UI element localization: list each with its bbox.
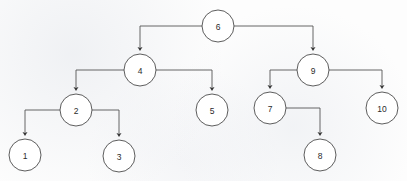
tree-diagram-canvas: 64925710138 bbox=[0, 0, 407, 181]
tree-node[interactable]: 7 bbox=[254, 92, 286, 124]
tree-node[interactable]: 10 bbox=[366, 92, 398, 124]
tree-node[interactable]: 3 bbox=[103, 140, 135, 172]
tree-node-circle[interactable] bbox=[304, 139, 336, 171]
tree-node-circle[interactable] bbox=[254, 92, 286, 124]
tree-node-circle[interactable] bbox=[124, 54, 156, 86]
tree-node[interactable]: 2 bbox=[60, 94, 92, 126]
tree-edge bbox=[234, 26, 313, 48]
tree-edge bbox=[140, 26, 202, 48]
tree-node-circle[interactable] bbox=[60, 94, 92, 126]
tree-node[interactable]: 9 bbox=[297, 54, 329, 86]
tree-edge bbox=[25, 110, 60, 133]
tree-node-circle[interactable] bbox=[366, 92, 398, 124]
tree-node[interactable]: 4 bbox=[124, 54, 156, 86]
tree-edge bbox=[270, 70, 297, 86]
tree-edge bbox=[156, 70, 212, 88]
tree-node-circle[interactable] bbox=[202, 10, 234, 42]
tree-edge bbox=[92, 110, 119, 134]
tree-node-circle[interactable] bbox=[297, 54, 329, 86]
tree-node[interactable]: 1 bbox=[9, 139, 41, 171]
tree-node[interactable]: 6 bbox=[202, 10, 234, 42]
tree-node[interactable]: 8 bbox=[304, 139, 336, 171]
nodes-layer: 64925710138 bbox=[9, 10, 398, 172]
tree-edge bbox=[76, 70, 124, 88]
tree-node[interactable]: 5 bbox=[196, 94, 228, 126]
tree-edge bbox=[329, 70, 382, 86]
tree-node-circle[interactable] bbox=[9, 139, 41, 171]
tree-node-circle[interactable] bbox=[196, 94, 228, 126]
tree-edge bbox=[286, 108, 320, 133]
tree-node-circle[interactable] bbox=[103, 140, 135, 172]
tree-diagram-svg: 64925710138 bbox=[0, 0, 407, 181]
